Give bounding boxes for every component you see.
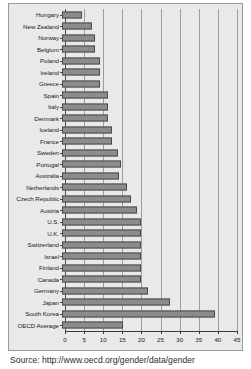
bar-row: Hungary (12, 9, 239, 21)
x-axis-tick (237, 331, 238, 334)
bar-category-label: Ireland (12, 69, 62, 76)
x-axis-tick-label: 20 (138, 336, 145, 343)
bar-category-label: Spain (12, 92, 62, 99)
bar (62, 218, 141, 225)
bar-row: Czech Republic (12, 193, 239, 205)
bar (62, 207, 137, 214)
bar-category-label: Sweden (12, 149, 62, 156)
x-axis-tick-label: 0 (63, 336, 66, 343)
bar-track (62, 90, 239, 102)
x-axis-tick (199, 331, 200, 334)
bar-track (62, 297, 239, 309)
bar-row: Israel (12, 251, 239, 263)
bar (62, 92, 108, 99)
bar-track (62, 193, 239, 205)
x-axis-tick-label: 25 (157, 336, 164, 343)
bar-row: Australia (12, 170, 239, 182)
bar-category-label: South Korea (12, 310, 62, 317)
bar-category-label: Canada (12, 276, 62, 283)
bar-row: New Zealand (12, 21, 239, 33)
bar (62, 161, 121, 168)
x-axis-tick (180, 331, 181, 334)
bar-row: Ireland (12, 67, 239, 79)
bar-track (62, 101, 239, 113)
x-axis-tick (84, 331, 85, 334)
bar (62, 34, 95, 41)
x-axis-tick-label: 15 (119, 336, 126, 343)
bar (62, 287, 148, 294)
bar (62, 253, 141, 260)
bar (62, 149, 118, 156)
bar-category-label: Israel (12, 253, 62, 260)
bar-category-label: Germany (12, 287, 62, 294)
bar-track (62, 67, 239, 79)
bar-category-label: Belgium (12, 46, 62, 53)
bar-track (62, 78, 239, 90)
bar-track (62, 113, 239, 125)
bar (62, 23, 92, 30)
x-axis-tick-label: 5 (82, 336, 85, 343)
x-axis-line (65, 331, 237, 332)
bar (62, 195, 131, 202)
x-axis-tick (65, 331, 66, 334)
bar-track (62, 320, 239, 332)
bar-row: U.S. (12, 216, 239, 228)
bar-category-label: Austria (12, 207, 62, 214)
bar (62, 57, 100, 64)
bar-track (62, 44, 239, 56)
bar-row: Netherlands (12, 182, 239, 194)
bar (62, 46, 95, 53)
bar-category-label: Iceland (12, 126, 62, 133)
bar-track (62, 147, 239, 159)
bar-row: U.K. (12, 228, 239, 240)
bar-category-label: France (12, 138, 62, 145)
bar (62, 184, 127, 191)
bar (62, 230, 141, 237)
x-axis-tick (122, 331, 123, 334)
bar-category-label: Finland (12, 264, 62, 271)
bar-track (62, 239, 239, 251)
bar-row: Sweden (12, 147, 239, 159)
bar (62, 80, 100, 87)
bar-row: Belgium (12, 44, 239, 56)
bar-row: Germany (12, 285, 239, 297)
bar-row: Greece (12, 78, 239, 90)
x-axis-tick-label: 10 (100, 336, 107, 343)
bar-track (62, 32, 239, 44)
bar-category-label: OECD Average (12, 322, 62, 329)
bar (62, 310, 215, 317)
chart-figure: HungaryNew ZealandNorwayBelgiumPolandIre… (0, 0, 251, 369)
x-axis-tick-label: 40 (214, 336, 221, 343)
x-axis-tick-label: 35 (195, 336, 202, 343)
bar-category-label: Norway (12, 34, 62, 41)
bar-row: Spain (12, 90, 239, 102)
bar-row: France (12, 136, 239, 148)
bar-track (62, 136, 239, 148)
bar-row: Canada (12, 274, 239, 286)
bar (62, 264, 141, 271)
bar-track (62, 159, 239, 171)
bar-track (62, 205, 239, 217)
bar-row: Portugal (12, 159, 239, 171)
bar-category-label: Portugal (12, 161, 62, 168)
bar (62, 138, 112, 145)
bar-row: Switzerland (12, 239, 239, 251)
bar-category-label: U.S. (12, 218, 62, 225)
bar (62, 299, 170, 306)
bar-track (62, 262, 239, 274)
bar (62, 103, 108, 110)
bar-track (62, 285, 239, 297)
bar (62, 126, 112, 133)
bar (62, 241, 141, 248)
bar-category-label: Czech Republic (12, 195, 62, 202)
bar-row: Iceland (12, 124, 239, 136)
bar-row: Poland (12, 55, 239, 67)
bar-category-label: Switzerland (12, 241, 62, 248)
bar (62, 69, 100, 76)
bar-row: OECD Average (12, 320, 239, 332)
bar-row: Denmark (12, 113, 239, 125)
bar-row: Norway (12, 32, 239, 44)
bar-track (62, 182, 239, 194)
bar-track (62, 251, 239, 263)
bar-category-label: Hungary (12, 11, 62, 18)
